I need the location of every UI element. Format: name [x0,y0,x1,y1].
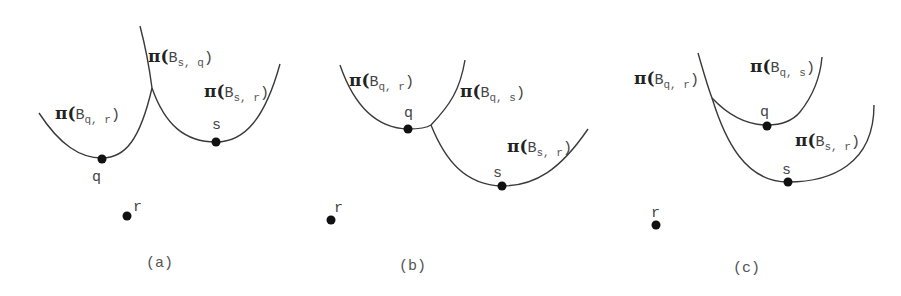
panel-a: q s r π(Bq, r) π(Bs, q) π(Bs, r) (a) [39,26,280,272]
caption-b: (b) [399,258,426,275]
point-label-s: s [212,117,221,134]
label-pi-b-q-s: π(Bq, s) [750,56,815,79]
point-r [123,212,132,221]
curve-b-s-r [712,98,874,182]
label-pi-b-q-s: π(Bq, s) [460,81,525,104]
curve-b-q-r [698,53,712,98]
label-pi-b-s-r: π(Bs, r) [795,130,860,153]
label-pi-b-s-q: π(Bs, q) [148,46,213,69]
point-label-q: q [92,169,101,186]
label-pi-b-q-r: π(Bq, r) [634,68,699,91]
point-label-s: s [493,165,502,182]
label-pi-b-q-r: π(Bq, r) [349,70,414,93]
point-label-s: s [782,162,791,179]
point-label-q: q [404,105,413,122]
caption-c: (c) [733,260,760,277]
label-pi-b-q-r: π(Bq, r) [55,103,120,126]
point-q [763,122,772,131]
point-label-q: q [760,104,769,121]
panel-c: q s r π(Bq, r) π(Bq, s) π(Bs, r) (c) [634,53,874,277]
panel-b: q s r π(Bq, r) π(Bq, s) π(Bs, r) (b) [327,60,589,275]
point-s [212,138,221,147]
diagram-canvas: q s r π(Bq, r) π(Bs, q) π(Bs, r) (a) q s… [0,0,901,296]
point-label-r: r [133,199,142,216]
point-label-r: r [334,200,343,217]
point-label-r: r [651,205,660,222]
point-q [98,155,107,164]
point-s [498,182,507,191]
label-pi-b-s-r: π(Bs, r) [204,81,269,104]
point-q [404,125,413,134]
label-pi-b-s-r: π(Bs, r) [507,136,572,159]
caption-a: (a) [146,255,173,272]
